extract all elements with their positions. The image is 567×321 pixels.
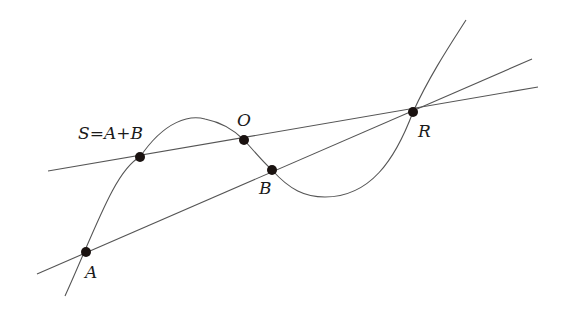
- label-B: B: [259, 180, 272, 197]
- point-S: [135, 152, 145, 162]
- point-A: [81, 247, 91, 257]
- point-R: [408, 107, 418, 117]
- label-S: S=A+B: [78, 125, 143, 142]
- label-O: O: [237, 112, 251, 129]
- label-R: R: [418, 123, 431, 140]
- point-O: [239, 135, 249, 145]
- point-B: [267, 165, 277, 175]
- line-A-B-R: [37, 59, 532, 274]
- label-A: A: [85, 264, 97, 281]
